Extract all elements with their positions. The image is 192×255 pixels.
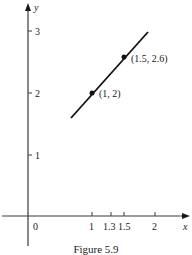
- y-axis-arrow-icon: [25, 3, 31, 11]
- x-tick-label-1-3: 1.3: [103, 221, 116, 232]
- x-tick-label-1-5: 1.5: [118, 221, 131, 232]
- y-tick-label-1: 1: [35, 150, 40, 161]
- graph-line: [71, 32, 148, 118]
- x-axis-arrow-icon: [182, 213, 190, 219]
- x-tick-label-1: 1: [89, 221, 94, 232]
- y-axis-label: y: [33, 2, 39, 13]
- point-label-1-5-2-6: (1.5, 2.6): [131, 53, 168, 65]
- point-1-2: [90, 91, 95, 96]
- x-axis-label: x: [182, 221, 188, 232]
- y-tick-label-2: 2: [35, 88, 40, 99]
- point-1-5-2-6: [122, 55, 127, 60]
- figure-caption: Figure 5.9: [0, 243, 192, 255]
- y-tick-label-3: 3: [35, 26, 40, 37]
- point-label-1-2: (1, 2): [99, 88, 121, 100]
- origin-label: 0: [33, 221, 38, 232]
- x-tick-label-2: 2: [152, 221, 157, 232]
